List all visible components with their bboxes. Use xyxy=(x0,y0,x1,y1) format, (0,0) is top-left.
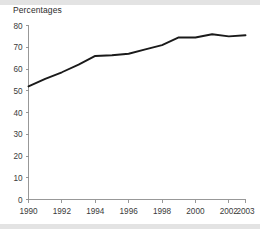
y-tick-label: 0 xyxy=(18,196,23,205)
chart-svg: 01020304050607080 1990199219941996199820… xyxy=(0,0,260,229)
x-tick-label: 1990 xyxy=(19,207,38,216)
y-axis xyxy=(26,26,29,200)
x-tick-label: 1998 xyxy=(153,207,172,216)
y-tick-label: 60 xyxy=(13,65,23,74)
plot-area: 01020304050607080 1990199219941996199820… xyxy=(0,0,260,229)
x-tick-label: 1996 xyxy=(120,207,139,216)
y-tick-label: 70 xyxy=(13,43,23,52)
x-tick-label: 2003 xyxy=(236,207,255,216)
x-tick-label: 1992 xyxy=(53,207,72,216)
x-tick-label: 1994 xyxy=(86,207,105,216)
y-tick-label: 10 xyxy=(13,174,23,183)
chart-figure: Percentages 01020304050607080 1990199219… xyxy=(0,0,260,229)
x-tick-label: 2000 xyxy=(186,207,205,216)
x-axis xyxy=(29,200,246,204)
series-line xyxy=(29,34,246,86)
y-tick-label: 80 xyxy=(13,22,23,31)
y-tick-label: 20 xyxy=(13,152,23,161)
data-series xyxy=(29,34,246,86)
y-tick-label: 40 xyxy=(13,109,23,118)
x-tick-labels: 19901992199419961998200020022003 xyxy=(19,207,255,216)
y-tick-labels: 01020304050607080 xyxy=(13,22,23,205)
y-tick-label: 30 xyxy=(13,130,23,139)
y-tick-label: 50 xyxy=(13,87,23,96)
